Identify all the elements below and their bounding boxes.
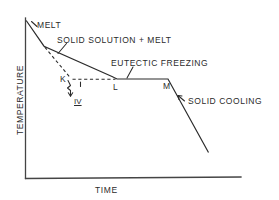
x-axis-title: TIME (95, 185, 118, 195)
annotation-eutectic-freezing: EUTECTIC FREEZING (111, 58, 208, 68)
point-label-m: M (163, 81, 170, 91)
solid-solution-leader-line (58, 44, 67, 54)
annotation-melt: MELT (37, 20, 61, 30)
annotation-solid-solution-melt: SOLID SOLUTION + MELT (57, 35, 172, 45)
region-label-iv: IV (74, 97, 82, 106)
eutectic-leader-line (127, 67, 133, 78)
y-axis-title: TEMPERATURE (15, 60, 25, 140)
point-label-l: L (113, 82, 118, 92)
cooling-curve-figure: TEMPERATURE TIME MELT SOLID SOLUTION + M… (0, 0, 279, 200)
point-label-k: K (60, 74, 66, 84)
annotation-solid-cooling: SOLID COOLING (188, 96, 262, 106)
x-axis-line (26, 177, 242, 179)
